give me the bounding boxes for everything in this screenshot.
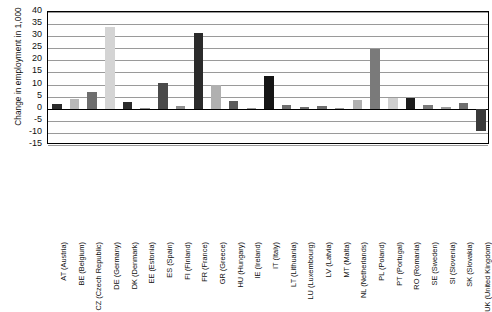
bar	[140, 108, 150, 109]
gridline	[48, 145, 488, 146]
bar	[211, 85, 221, 109]
bar	[441, 107, 451, 109]
y-axis-tick-label: 15	[14, 66, 42, 75]
bar	[300, 107, 310, 109]
x-axis-category-label: FI (Finland)	[183, 242, 192, 280]
x-axis-category-label: CZ (Czech Republic)	[94, 242, 103, 311]
x-axis-category-label: RO (Romania)	[412, 242, 421, 290]
y-axis-tick-label: 0	[14, 103, 42, 112]
bar	[123, 102, 133, 109]
y-axis-tick-label: 30	[14, 30, 42, 39]
x-axis-category-labels: AT (Austria)BE (Belgium)CZ (Czech Republ…	[47, 147, 489, 245]
bar	[353, 100, 363, 109]
x-axis-category-label: EE (Estonia)	[147, 242, 156, 284]
y-axis-tick-labels: 4035302520151050-5-10-15	[14, 0, 44, 245]
y-axis-tick-label: 25	[14, 42, 42, 51]
x-axis-category-label: HU (Hungary)	[236, 242, 245, 288]
bar	[282, 105, 292, 109]
x-axis-category-label: PL (Poland)	[377, 242, 386, 281]
x-axis-category-label: SK (Slovakia)	[465, 242, 474, 287]
x-axis-category-label: GR (Greece)	[218, 242, 227, 284]
bar	[388, 98, 398, 109]
x-axis-category-label: FR (France)	[200, 242, 209, 282]
bar	[335, 108, 345, 109]
x-axis-category-label: NL (Netherlands)	[359, 242, 368, 298]
plot-area	[47, 11, 489, 144]
bar	[247, 108, 257, 109]
y-axis-tick-label: 40	[14, 6, 42, 15]
bar	[70, 99, 80, 109]
y-axis-tick-label: -10	[14, 127, 42, 136]
bar-series	[48, 12, 488, 143]
bar	[194, 33, 204, 109]
x-axis-category-label: MT (Malta)	[342, 242, 351, 278]
bar	[317, 106, 327, 109]
x-axis-category-label: IT (Italy)	[271, 242, 280, 269]
x-axis-category-label: PT (Portugal)	[395, 242, 404, 286]
bar	[105, 27, 115, 109]
y-axis-tick-label: -15	[14, 139, 42, 148]
x-axis-category-label: ES (Spain)	[165, 242, 174, 278]
bar	[459, 103, 469, 108]
bar	[406, 98, 416, 109]
y-axis-tick-label: 20	[14, 54, 42, 63]
x-axis-category-label: BE (Belgium)	[77, 242, 86, 286]
x-axis-category-label: AT (Austria)	[59, 242, 68, 281]
bar	[229, 101, 239, 109]
y-axis-tick-label: 5	[14, 91, 42, 100]
x-axis-category-label: LT (Lithuania)	[289, 242, 298, 287]
x-axis-category-label: DE (Germany)	[112, 242, 121, 290]
bar	[264, 76, 274, 109]
bar	[370, 49, 380, 109]
x-axis-category-label: UK (United Kingdom)	[483, 242, 492, 312]
x-axis-category-label: SE (Sweden)	[430, 242, 439, 286]
bar	[87, 92, 97, 109]
bar	[423, 105, 433, 109]
y-axis-tick-label: 10	[14, 79, 42, 88]
y-axis-tick-label: -5	[14, 115, 42, 124]
x-axis-category-label: DK (Denmark)	[130, 242, 139, 289]
bar	[158, 83, 168, 108]
bar	[476, 109, 486, 131]
x-axis-category-label: SI (Slovenia)	[448, 242, 457, 284]
x-axis-category-label: IE (Ireland)	[253, 242, 262, 279]
bar	[176, 106, 186, 109]
x-axis-category-label: LV (Latvia)	[324, 242, 333, 277]
x-axis-category-label: LU (Luxembourg)	[306, 242, 315, 300]
y-axis-tick-label: 35	[14, 18, 42, 27]
bar	[52, 104, 62, 109]
